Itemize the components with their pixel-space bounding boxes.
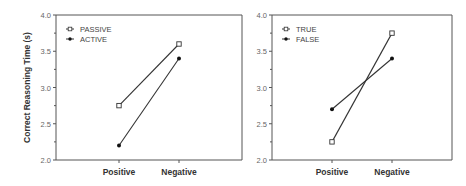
y-tick-label: 4.0 xyxy=(41,11,51,20)
open-square-marker xyxy=(177,42,181,46)
series-line-passive xyxy=(119,44,179,106)
x-tick-label: Positive xyxy=(103,167,136,177)
legend-label: FALSE xyxy=(296,35,319,44)
y-tick-label: 3.0 xyxy=(41,84,51,93)
x-tick-label: Negative xyxy=(374,167,410,177)
x-tick-label: Negative xyxy=(161,167,197,177)
legend-label: TRUE xyxy=(296,25,316,34)
y-tick-label: 4.0 xyxy=(257,11,267,20)
y-tick-label: 3.5 xyxy=(41,47,51,56)
filled-marker xyxy=(177,57,181,61)
y-tick-label: 3.0 xyxy=(257,84,267,93)
open-square-marker xyxy=(330,140,334,144)
series-line-false xyxy=(332,59,392,110)
x-tick-label: Positive xyxy=(316,167,349,177)
filled-marker xyxy=(117,144,121,148)
legend-label: ACTIVE xyxy=(80,35,107,44)
y-tick-label: 2.5 xyxy=(257,120,267,129)
filled-marker xyxy=(390,57,394,61)
left-panel-passive-active: 2.02.53.03.54.0PositiveNegativeCorrect R… xyxy=(22,11,242,177)
y-axis-label: Correct Reasoning Time (s) xyxy=(22,32,32,143)
legend-dot-icon xyxy=(68,37,71,40)
legend-label: PASSIVE xyxy=(80,25,112,34)
legend-square-icon xyxy=(284,27,288,31)
y-tick-label: 2.5 xyxy=(41,120,51,129)
legend-square-icon xyxy=(68,27,72,31)
series-line-true xyxy=(332,33,392,142)
y-tick-label: 2.0 xyxy=(41,156,51,165)
right-panel-true-false: 2.02.53.03.54.0PositiveNegativeTRUEFALSE xyxy=(257,11,452,177)
open-square-marker xyxy=(390,31,394,35)
filled-marker xyxy=(330,107,334,111)
y-tick-label: 3.5 xyxy=(257,47,267,56)
chart-figure: 2.02.53.03.54.0PositiveNegativeCorrect R… xyxy=(0,0,466,186)
legend-dot-icon xyxy=(284,37,287,40)
series-line-active xyxy=(119,59,179,146)
y-tick-label: 2.0 xyxy=(257,156,267,165)
open-square-marker xyxy=(117,103,121,107)
